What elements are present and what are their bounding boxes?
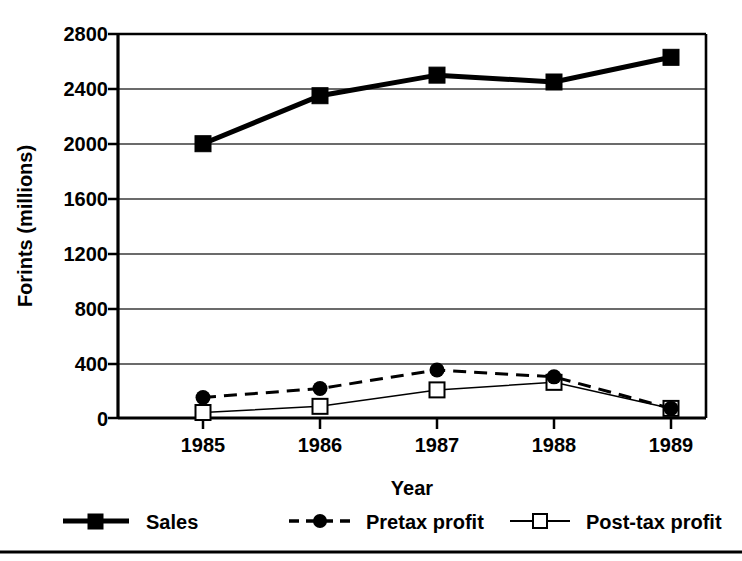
chart-figure: Forints (millions) 2800 2400 2000 1600 1… — [0, 0, 742, 561]
chart-background — [0, 0, 742, 561]
legend-label-post-tax-profit: Post-tax profit — [586, 511, 722, 533]
x-tick-label: 1986 — [298, 434, 343, 456]
y-tick-label: 2800 — [64, 23, 109, 45]
data-point-filled-circle — [430, 363, 445, 378]
data-point-filled-square — [312, 88, 328, 104]
data-point-open-square — [430, 382, 445, 397]
x-tick-label: 1987 — [415, 434, 460, 456]
data-point-filled-circle — [664, 401, 679, 416]
x-tick-label: 1985 — [181, 434, 226, 456]
y-tick-label: 400 — [75, 353, 108, 375]
data-point-filled-square — [663, 49, 679, 65]
data-point-filled-circle — [196, 390, 211, 405]
y-tick-label: 2000 — [64, 133, 109, 155]
data-point-open-square — [196, 405, 211, 420]
y-tick-label: 1200 — [64, 243, 109, 265]
data-point-filled-square — [429, 67, 445, 83]
x-axis-title: Year — [391, 477, 433, 499]
data-point-filled-circle — [313, 381, 328, 396]
y-tick-label: 0 — [97, 408, 108, 430]
x-tick-label: 1989 — [649, 434, 694, 456]
line-chart-svg: Forints (millions) 2800 2400 2000 1600 1… — [0, 0, 742, 561]
x-tick-label: 1988 — [532, 434, 577, 456]
open-square-marker-icon — [533, 514, 547, 528]
data-point-filled-square — [195, 136, 211, 152]
y-tick-label: 1600 — [64, 188, 109, 210]
data-point-filled-square — [546, 74, 562, 90]
filled-square-marker-icon — [88, 514, 103, 529]
legend-label-pretax-profit: Pretax profit — [366, 511, 484, 533]
chart-legend: Sales Pretax profit Post-tax profit — [63, 511, 722, 533]
legend-label-sales: Sales — [146, 511, 198, 533]
filled-circle-marker-icon — [313, 514, 327, 528]
data-point-filled-circle — [547, 369, 562, 384]
y-tick-label: 2400 — [64, 78, 109, 100]
data-point-open-square — [313, 399, 328, 414]
y-axis-title: Forints (millions) — [14, 145, 36, 307]
y-tick-label: 800 — [75, 298, 108, 320]
